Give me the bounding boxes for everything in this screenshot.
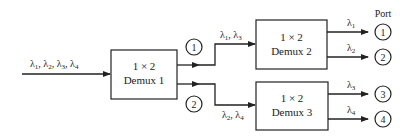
svg-text:1: 1 [381,27,386,38]
output-label-1: λ1 [347,17,356,30]
demux-3-box: 1 × 2 Demux 3 [256,82,328,130]
port-header: Port [375,8,392,19]
svg-text:1: 1 [192,42,197,53]
svg-text:2: 2 [192,99,197,110]
demux-1-type: 1 × 2 [133,60,156,72]
demux-3-type: 1 × 2 [281,92,304,104]
demux-3-name: Demux 3 [272,106,313,118]
branch-node-1: 1 [186,39,202,55]
demux-1-box: 1 × 2 Demux 1 [111,50,177,99]
svg-text:2: 2 [381,52,386,63]
input-label: λ1, λ2, λ3, λ4 [30,58,79,71]
port-4: 4 [375,111,391,127]
demux-1-name: Demux 1 [124,74,165,86]
upper-branch-label: λ1, λ3 [220,29,242,42]
port-3: 3 [375,86,391,102]
output-label-3: λ3 [347,79,356,92]
port-1: 1 [375,24,391,40]
output-label-4: λ4 [347,104,356,117]
svg-text:4: 4 [381,114,386,125]
port-2: 2 [375,49,391,65]
demux-2-type: 1 × 2 [280,31,303,43]
demux-2-name: Demux 2 [271,45,312,57]
svg-text:3: 3 [381,89,386,100]
lower-branch-label: λ2, λ4 [222,109,244,122]
demux-2-box: 1 × 2 Demux 2 [256,20,327,69]
wdm-demux-diagram: λ1, λ2, λ3, λ4 1 × 2 Demux 1 1 λ1, λ3 2 … [0,0,413,139]
output-label-2: λ2 [347,42,356,55]
branch-node-2: 2 [186,96,202,112]
